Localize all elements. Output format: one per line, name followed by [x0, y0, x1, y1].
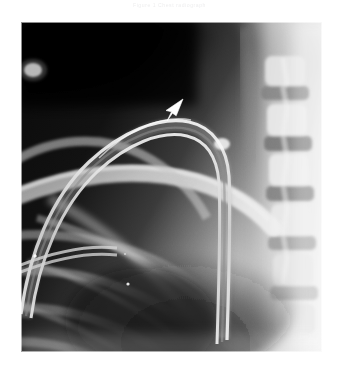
chest-radiograph-image	[21, 22, 322, 352]
right-edge-fade	[293, 22, 322, 352]
film-grain	[21, 22, 322, 352]
figure-caption-bar: Figure 1 Chest radiograph	[0, 0, 339, 10]
figure-caption-text: Figure 1 Chest radiograph	[133, 2, 206, 8]
radiograph-canvas	[21, 22, 322, 352]
bottom-edge-fade	[21, 334, 322, 352]
